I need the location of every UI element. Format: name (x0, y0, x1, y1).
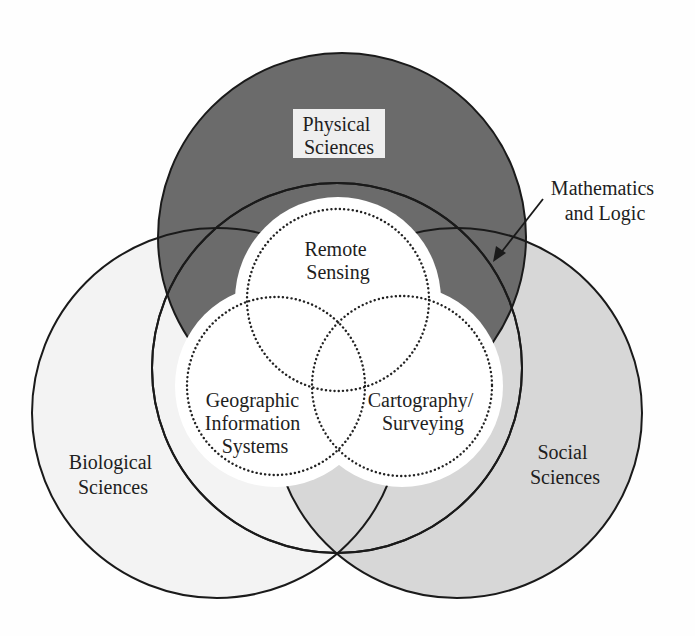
cartography-label: Cartography/ Surveying (368, 389, 479, 435)
physical-sciences-label: Physical Sciences (303, 113, 376, 158)
remote-sensing-label: Remote Sensing (304, 238, 371, 284)
mathematics-logic-label: Mathematics and Logic (551, 177, 659, 225)
venn-diagram: Physical Sciences Biological Sciences So… (0, 0, 695, 636)
venn-svg: Physical Sciences Biological Sciences So… (0, 0, 695, 636)
